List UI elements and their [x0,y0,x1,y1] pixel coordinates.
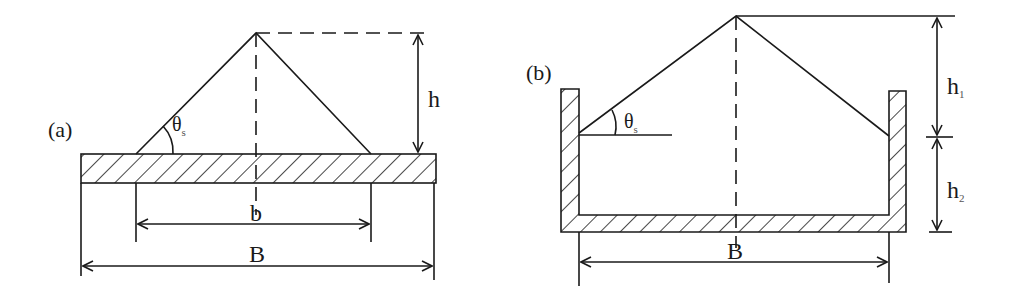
angle-label: θs [172,113,186,138]
panel-b: (b) θs h1 h2 B [526,16,965,286]
base-plate [81,154,436,183]
panel-b-label: (b) [526,60,552,85]
panel-a: (a) θs h b B [48,33,440,280]
angle-label: θs [624,110,638,135]
angle-arc [612,110,616,135]
b-label: b [250,200,262,226]
B-label: B [249,241,265,267]
h-label: h [428,86,440,112]
panel-a-label: (a) [48,117,72,142]
diagram-canvas: (a) θs h b B (b) [0,0,1014,304]
B-label: B [727,238,743,264]
h1-label: h1 [947,73,965,100]
h2-label: h2 [947,177,965,204]
pile-outline [136,33,371,154]
